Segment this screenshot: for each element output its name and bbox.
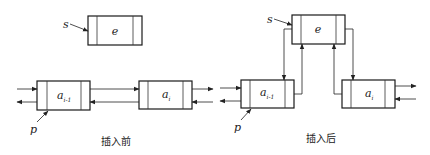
before-pointer-p-arrow xyxy=(37,111,48,122)
after-node-cur: ai xyxy=(342,80,395,108)
after-e-prior-arrow xyxy=(284,29,292,80)
after-cur-prior-arrow xyxy=(334,44,342,94)
after-pointer-p-arrow xyxy=(241,109,251,120)
after-pointer-p-label: p xyxy=(234,121,241,134)
after-diagram: e s ai-1 ai p xyxy=(220,13,416,144)
before-node-e: e xyxy=(88,16,142,45)
before-node-prev: ai-1 xyxy=(37,81,90,110)
after-node-e: e xyxy=(292,15,345,44)
after-node-e-label: e xyxy=(315,23,322,36)
after-e-next-arrow xyxy=(345,29,353,80)
after-node-prev: ai-1 xyxy=(241,80,294,108)
before-pointer-s-arrow xyxy=(70,24,88,31)
before-node-e-label: e xyxy=(112,25,119,38)
after-caption: 插入后 xyxy=(306,132,336,144)
doubly-linked-list-insertion-diagram: e s ai-1 ai p 插入前 xyxy=(0,0,430,155)
after-pointer-s-label: s xyxy=(267,13,273,26)
after-prev-next-arrow xyxy=(294,44,302,94)
before-pointer-s-label: s xyxy=(63,18,69,31)
before-caption: 插入前 xyxy=(101,135,131,147)
before-node-cur: ai xyxy=(139,81,192,109)
before-diagram: e s ai-1 ai p 插入前 xyxy=(17,16,213,147)
before-pointer-p-label: p xyxy=(30,123,37,136)
after-pointer-s-arrow xyxy=(274,19,292,25)
